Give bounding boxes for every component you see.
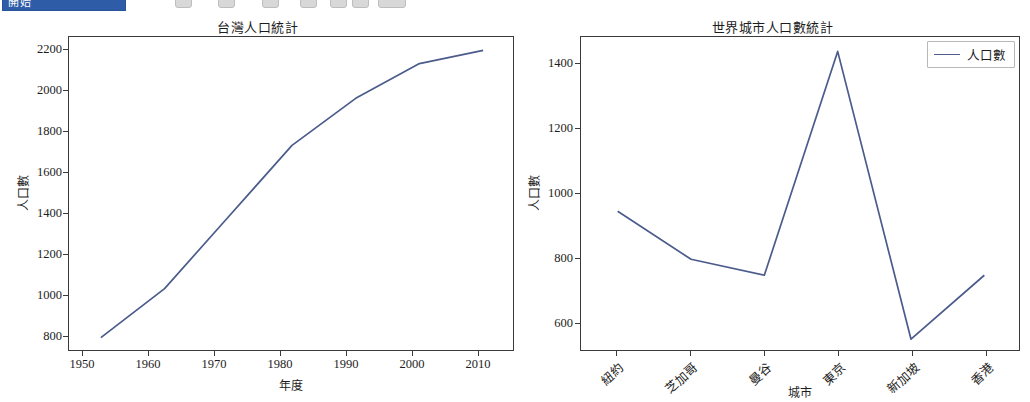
xtickmark-right-4 — [912, 351, 913, 356]
xtickmark-right-1 — [690, 351, 691, 356]
ytickmark-left-7 — [63, 49, 68, 50]
xlabel-left: 年度 — [68, 376, 514, 394]
xtick-left-1: 1960 — [118, 357, 178, 372]
xtickmark-left-4 — [346, 351, 347, 356]
chart-panel-world-cities: 世界城市人口數統計 人口數 600 800 1000 1200 1400 紐約 … — [515, 11, 1030, 396]
save-icon[interactable] — [175, 0, 192, 8]
ytick-right-1: 800 — [529, 251, 573, 266]
xtickmark-left-0 — [82, 351, 83, 356]
toolbar-active-tab[interactable]: 開始 — [2, 0, 126, 11]
ytickmark-left-2 — [63, 254, 68, 255]
plot-area-right: 人口數 — [580, 36, 1020, 351]
ytick-right-0: 600 — [529, 316, 573, 331]
ytick-left-5: 1800 — [18, 124, 62, 139]
chart-title-left: 台灣人口統計 — [0, 17, 515, 36]
ytickmark-left-0 — [63, 336, 68, 337]
ylabel-right: 人口數 — [525, 175, 543, 211]
xtickmark-left-6 — [478, 351, 479, 356]
ytickmark-left-1 — [63, 295, 68, 296]
xtick-left-2: 1970 — [184, 357, 244, 372]
ytickmark-left-3 — [63, 213, 68, 214]
legend-entry-label: 人口數 — [967, 45, 1006, 64]
ytick-right-4: 1400 — [529, 56, 573, 71]
xtickmark-left-2 — [214, 351, 215, 356]
xtickmark-right-5 — [986, 351, 987, 356]
ytickmark-left-4 — [63, 172, 68, 173]
ytickmark-right-3 — [575, 128, 580, 129]
xtickmark-left-1 — [148, 351, 149, 356]
ytickmark-right-0 — [575, 323, 580, 324]
xtickmark-right-0 — [616, 351, 617, 356]
ytick-left-1: 1000 — [18, 288, 62, 303]
ytick-left-7: 2200 — [18, 42, 62, 57]
ytick-left-2: 1200 — [18, 247, 62, 262]
chart-panel-taiwan-population: 台灣人口統計 800 1000 1200 1400 1600 1800 2000… — [0, 11, 515, 396]
ytick-right-3: 1200 — [529, 121, 573, 136]
chart-legend[interactable]: 人口數 — [927, 41, 1015, 68]
redo-icon[interactable] — [262, 0, 279, 8]
line-series-taiwan — [69, 37, 515, 352]
format-icon[interactable] — [378, 0, 406, 8]
toolbar-active-tab-label: 開始 — [8, 0, 32, 9]
ytickmark-right-2 — [575, 193, 580, 194]
undo-icon[interactable] — [218, 0, 235, 8]
legend-line-swatch — [934, 54, 960, 55]
xtickmark-left-3 — [280, 351, 281, 356]
xtick-left-4: 1990 — [316, 357, 376, 372]
plot-area-left — [68, 36, 514, 351]
line-series-cities — [581, 37, 1021, 352]
xtickmark-left-5 — [412, 351, 413, 356]
ytickmark-right-4 — [575, 63, 580, 64]
xtickmark-right-2 — [764, 351, 765, 356]
xlabel-right: 城市 — [580, 383, 1020, 401]
chart-title-right: 世界城市人口數統計 — [515, 17, 1030, 36]
xtick-left-6: 2010 — [448, 357, 508, 372]
application-toolbar: 開始 — [0, 0, 1030, 11]
paste-icon[interactable] — [352, 0, 369, 8]
copy-icon[interactable] — [330, 0, 347, 8]
matplotlib-figure: 台灣人口統計 800 1000 1200 1400 1600 1800 2000… — [0, 11, 1030, 396]
ytickmark-left-6 — [63, 90, 68, 91]
ylabel-left: 人口數 — [14, 175, 32, 211]
xtick-left-5: 2000 — [382, 357, 442, 372]
ytickmark-left-5 — [63, 131, 68, 132]
cut-icon[interactable] — [300, 0, 317, 8]
ytick-left-6: 2000 — [18, 83, 62, 98]
ytickmark-right-1 — [575, 258, 580, 259]
xtick-left-0: 1950 — [52, 357, 112, 372]
xtickmark-right-3 — [838, 351, 839, 356]
ytick-left-0: 800 — [18, 329, 62, 344]
xtick-left-3: 1980 — [250, 357, 310, 372]
